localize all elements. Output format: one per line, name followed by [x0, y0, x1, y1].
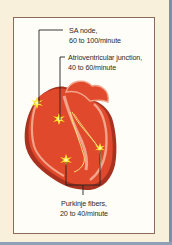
label-purkinje-rate: 20 to 40/minute — [58, 209, 110, 219]
label-purkinje: Purkinje fibers, 20 to 40/minute — [58, 199, 110, 218]
label-purkinje-title: Purkinje fibers, — [58, 199, 110, 209]
label-sa-node: SA node, 60 to 100/minute — [69, 26, 121, 45]
label-av-junction-title: Atrioventricular junction, — [68, 53, 142, 63]
label-sa-node-rate: 60 to 100/minute — [69, 36, 121, 46]
label-av-junction: Atrioventricular junction, 40 to 60/minu… — [68, 53, 142, 72]
label-av-junction-rate: 40 to 60/minute — [68, 63, 142, 73]
label-sa-node-title: SA node, — [69, 26, 121, 36]
